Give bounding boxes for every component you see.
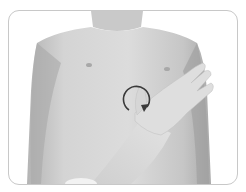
torso-illustration [9, 11, 237, 184]
neck [91, 11, 143, 31]
illustration-frame [8, 10, 238, 185]
